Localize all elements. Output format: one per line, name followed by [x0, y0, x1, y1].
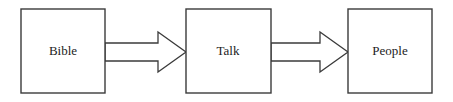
- arrow-bible-to-talk: [105, 32, 186, 72]
- node-people[interactable]: People: [348, 9, 432, 93]
- node-talk-label: Talk: [217, 43, 240, 58]
- node-people-label: People: [372, 43, 408, 58]
- node-talk[interactable]: Talk: [186, 9, 271, 93]
- diagram-canvas: Bible Talk People: [0, 0, 453, 102]
- node-bible-label: Bible: [49, 43, 77, 58]
- node-bible[interactable]: Bible: [21, 9, 105, 93]
- arrow-talk-to-people: [271, 32, 348, 72]
